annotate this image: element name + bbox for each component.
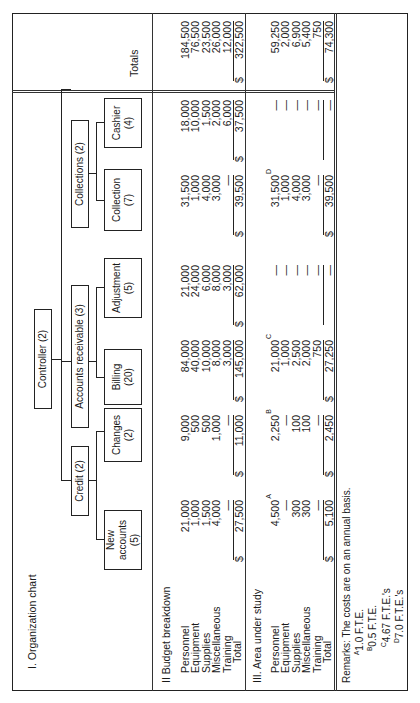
footnote-mark: B bbox=[366, 647, 373, 651]
org-box-changes: Changes(2) bbox=[104, 408, 142, 462]
footnote: B0.5 F.T.E. bbox=[365, 488, 378, 683]
dollar-sign: $ bbox=[234, 396, 244, 402]
unit-name: Adjustment bbox=[111, 263, 123, 313]
total-value: 5,100 bbox=[323, 500, 335, 526]
total-cell: $74,300 bbox=[323, 21, 334, 81]
total-value: 322,500 bbox=[233, 21, 245, 59]
footnote-mark: A bbox=[353, 651, 360, 655]
total-cell: $37,500 bbox=[233, 100, 244, 160]
dollar-sign: $ bbox=[324, 471, 334, 477]
rotated-document-page: I. Organization chart II Budget breakdow… bbox=[0, 0, 420, 703]
total-cell: $62,000 bbox=[233, 265, 244, 325]
area-col-billing: 21,000C 1,000 2,500 2,000 750 $27,250 bbox=[270, 340, 334, 400]
dollar-sign: $ bbox=[324, 556, 334, 562]
total-value: — bbox=[323, 265, 335, 276]
total-value: 27,250 bbox=[323, 340, 335, 372]
footnote-mark: A bbox=[264, 494, 274, 499]
total-cell: $11,000 bbox=[233, 415, 244, 475]
row-label: Training bbox=[222, 606, 232, 673]
area-col-new-accounts: 4,500A — 300 300 — $5,100 bbox=[270, 500, 334, 560]
unit-count: (4) bbox=[123, 117, 134, 129]
section-title-org-chart: I. Organization chart bbox=[26, 574, 38, 669]
remarks-block: Remarks: The costs are on an annual basi… bbox=[342, 488, 405, 683]
total-cell: $27,500 bbox=[233, 500, 244, 560]
section-divider-budget bbox=[152, 13, 153, 691]
dollar-sign: $ bbox=[234, 156, 244, 162]
unit-count: (5) bbox=[123, 282, 134, 294]
area-col-adjustment: — — — — — — bbox=[270, 265, 334, 325]
cell: — bbox=[312, 415, 322, 475]
dollar-sign: $ bbox=[234, 471, 244, 477]
total-cell: $5,100 bbox=[323, 500, 334, 560]
unit-count: (2) bbox=[123, 429, 134, 441]
org-box-billing: Billing(20) bbox=[104, 349, 142, 405]
footnote: D7.0 F.T.E.'s bbox=[392, 488, 405, 683]
footnote-text: 7.0 F.T.E.'s bbox=[394, 590, 405, 639]
totals-header: Totals bbox=[128, 50, 140, 77]
unit-name: Billing bbox=[111, 364, 123, 391]
cell: — bbox=[312, 175, 322, 235]
dollar-sign: $ bbox=[234, 556, 244, 562]
footnote-mark: C bbox=[380, 642, 387, 647]
area-col-totals: 59,250 2,000 6,900 5,400 750 $74,300 bbox=[270, 21, 334, 81]
cell: 3,000 bbox=[222, 340, 232, 400]
total-value: 2,450 bbox=[323, 415, 335, 441]
budget-col-totals: 184,500 76,500 23,500 26,000 12,000 $322… bbox=[180, 21, 244, 81]
footnote-text: 0.5 F.T.E. bbox=[368, 605, 379, 647]
cell: — bbox=[312, 100, 322, 160]
cell: 3,000 bbox=[222, 265, 232, 325]
total-cell: $145,000 bbox=[233, 340, 244, 400]
footnote: C4.67 F.T.E.'s bbox=[379, 488, 392, 683]
org-connector bbox=[61, 361, 71, 362]
org-connector bbox=[61, 89, 62, 481]
org-box-adjustment: Adjustment(5) bbox=[104, 258, 142, 318]
section-divider-area bbox=[245, 13, 246, 691]
total-cell: — bbox=[323, 100, 334, 160]
row-label: Training bbox=[312, 606, 322, 673]
cell: — bbox=[222, 415, 232, 475]
cell: — bbox=[312, 265, 322, 325]
footnote-mark: C bbox=[264, 334, 274, 339]
org-connector bbox=[96, 431, 104, 432]
section-title-budget: II Budget breakdown bbox=[160, 587, 172, 683]
total-value: 39,500 bbox=[233, 175, 245, 207]
cell: 6,000 bbox=[222, 100, 232, 160]
footnote-mark: D bbox=[393, 638, 400, 643]
dollar-sign: $ bbox=[234, 77, 244, 83]
cell: 12,000 bbox=[222, 21, 232, 81]
remarks-text: Remarks: The costs are on an annual basi… bbox=[342, 488, 352, 683]
budget-col-cashier: 18,000 10,000 1,500 2,000 6,000 $37,500 bbox=[180, 100, 244, 160]
org-box-collection: Collection(7) bbox=[104, 169, 142, 231]
dollar-sign: $ bbox=[324, 231, 334, 237]
total-value: 62,000 bbox=[233, 265, 245, 297]
total-value: 145,000 bbox=[233, 340, 245, 378]
total-cell: $27,250 bbox=[323, 340, 334, 400]
total-value: 37,500 bbox=[233, 100, 245, 132]
total-cell: $39,500 bbox=[323, 175, 334, 235]
total-cell: — bbox=[323, 265, 334, 325]
unit-count: (5) bbox=[129, 534, 140, 546]
unit-count: (20) bbox=[123, 368, 134, 386]
org-connector bbox=[96, 200, 104, 201]
budget-col-new-accounts: 21,000 1,000 1,500 4,000 — $27,500 bbox=[180, 500, 244, 560]
dollar-sign: $ bbox=[324, 396, 334, 402]
unit-name: Changes bbox=[111, 415, 123, 455]
row-label: Total bbox=[322, 606, 332, 673]
org-connector bbox=[96, 539, 104, 540]
dollar-sign: $ bbox=[234, 321, 244, 327]
unit-name: Cashier bbox=[111, 106, 123, 140]
total-value: 74,300 bbox=[323, 21, 335, 53]
org-box-cashier: Cashier(4) bbox=[104, 98, 142, 148]
org-box-accounts-receivable: Accounts receivable (3) bbox=[71, 285, 89, 428]
org-connector bbox=[96, 287, 104, 288]
total-cell: $2,450 bbox=[323, 415, 334, 475]
footnote-text: 1.0 F.T.E. bbox=[354, 609, 365, 651]
org-connector bbox=[96, 377, 104, 378]
cell: — bbox=[222, 500, 232, 560]
budget-col-adjustment: 21,000 24,000 6,000 8,000 3,000 $62,000 bbox=[180, 265, 244, 325]
unit-name: New accounts bbox=[105, 517, 129, 563]
dollar-sign: $ bbox=[234, 231, 244, 237]
footnote: A1.0 F.T.E. bbox=[352, 488, 365, 683]
org-connector bbox=[96, 122, 104, 123]
section-title-area: III. Area under study bbox=[251, 589, 263, 683]
